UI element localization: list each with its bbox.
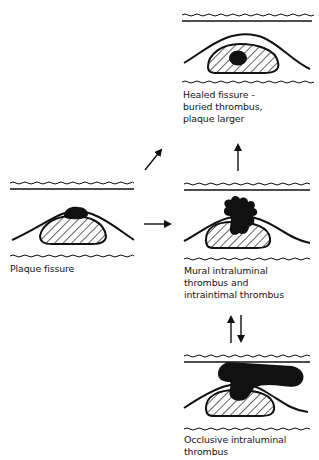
vessel-wall-lower — [182, 81, 314, 83]
fissure-thrombus — [64, 207, 88, 220]
vessel-wall-upper — [182, 14, 314, 16]
stage-mural-thrombus — [184, 183, 310, 260]
label-occlusive-thrombus: Occlusive intraluminal thrombus — [184, 434, 286, 458]
vessel-wall-lower — [184, 428, 310, 430]
vessel-wall-upper — [10, 182, 134, 184]
stage-plaque-fissure — [10, 182, 134, 257]
label-plaque-fissure: Plaque fissure — [10, 263, 74, 275]
vessel-wall-upper — [184, 355, 310, 357]
stage-healed-fissure — [182, 14, 314, 83]
plaque-fissure-diagram — [0, 0, 319, 460]
vessel-wall-lower — [184, 258, 310, 260]
vessel-wall-lower — [10, 255, 134, 257]
buried-thrombus — [229, 51, 247, 66]
label-mural-thrombus: Mural intraluminal thrombus and intraint… — [184, 265, 284, 301]
label-healed-fissure: Healed fissure - buried thrombus, plaque… — [183, 89, 262, 125]
arrow-up-right-icon — [145, 150, 161, 170]
vessel-wall-upper — [184, 183, 310, 185]
stage-occlusive-thrombus — [184, 355, 310, 430]
